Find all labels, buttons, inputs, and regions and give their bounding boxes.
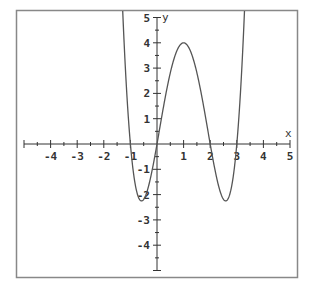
y-tick-label: 4: [143, 37, 150, 50]
x-tick-label: 4: [260, 150, 267, 163]
x-tick-label: 5: [287, 150, 294, 163]
y-tick-label: 1: [143, 113, 150, 126]
y-tick-label: -4: [137, 239, 151, 252]
y-tick-label: 3: [143, 62, 150, 75]
x-tick-label: -2: [97, 150, 110, 163]
x-axis-label: x: [285, 127, 292, 140]
function-plot: -4-3-2-11234554321-1-2-3-4 x y: [0, 0, 313, 287]
x-tick-label: -3: [71, 150, 84, 163]
y-tick-label: -3: [137, 214, 150, 227]
y-axis-label: y: [162, 11, 169, 24]
x-tick-label: 3: [233, 150, 240, 163]
y-tick-label: -1: [137, 163, 151, 176]
y-tick-label: 2: [143, 87, 150, 100]
y-tick-label: 5: [143, 12, 150, 25]
x-tick-label: -4: [44, 150, 58, 163]
x-tick-label: 1: [180, 150, 187, 163]
